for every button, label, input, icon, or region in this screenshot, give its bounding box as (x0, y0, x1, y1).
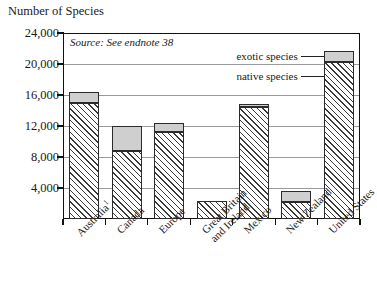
y-axis-tick-label: 4,000 (31, 181, 59, 196)
species-bar-chart: Number of Species 4,0008,00012,00016,000… (0, 0, 377, 288)
chart-title: Number of Species (8, 4, 104, 18)
bar-segment-exotic (324, 51, 354, 62)
x-axis-tick-mark (62, 219, 63, 225)
bar-segment-exotic (154, 123, 184, 132)
y-axis-tick-label: 24,000 (25, 26, 59, 41)
y-axis-tick-label: 12,000 (25, 119, 59, 134)
bar-segment-exotic (69, 92, 99, 103)
bars-layer (63, 33, 360, 219)
y-axis-tick-label: 8,000 (31, 150, 59, 165)
x-axis-tick-mark (317, 219, 318, 225)
legend-leader-line-exotic (301, 56, 324, 57)
y-axis-tick-label: 16,000 (25, 88, 59, 103)
y-axis-tick-label: 20,000 (25, 57, 59, 72)
x-axis-tick-mark (147, 219, 148, 225)
bar-segment-exotic (112, 126, 142, 151)
bar-australia (69, 92, 99, 219)
legend-leader-line-native (301, 76, 324, 77)
x-axis-tick-mark (190, 219, 191, 225)
legend-label-exotic: exotic species (236, 50, 297, 62)
x-axis-tick-mark (275, 219, 276, 225)
bar-segment-exotic (281, 191, 311, 202)
x-axis-tick-mark (359, 219, 360, 225)
bar-segment-native (69, 103, 99, 219)
bar-segment-exotic (239, 104, 269, 106)
legend-label-native: native species (236, 70, 297, 82)
x-axis-tick-mark (105, 219, 106, 225)
